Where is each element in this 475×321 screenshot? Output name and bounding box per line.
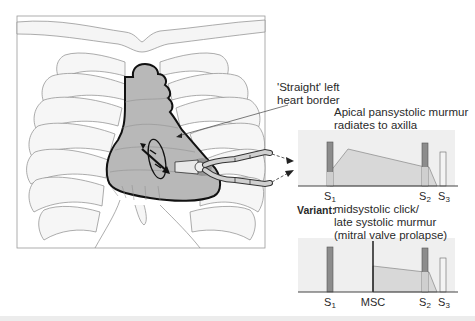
s3-bar	[440, 258, 446, 292]
straight-border-label-line2: heart border	[277, 94, 340, 107]
apical-murmur-label-line2: radiates to axilla	[334, 119, 468, 132]
variant-label-line3: (mitral valve prolapse)	[334, 229, 447, 242]
straight-border-label: 'Straight' left heart border	[277, 81, 340, 107]
s2-label-lower: S2	[419, 296, 431, 310]
phonocardiogram-upper	[298, 130, 458, 186]
s1-label-lower: S1	[324, 296, 336, 310]
msc-label: MSC	[361, 296, 385, 308]
variant-label-line1: midsystolic click/	[334, 203, 447, 216]
s3-bar	[440, 152, 446, 186]
footer-strip	[0, 316, 475, 321]
s2-label-upper: S2	[419, 190, 431, 204]
s3-label-lower: S3	[438, 296, 450, 310]
diagram-canvas	[0, 0, 475, 321]
variant-prefix-text: Variant:	[297, 204, 336, 216]
variant-label: midsystolic click/ late systolic murmur …	[334, 203, 447, 242]
s1-label-upper: S1	[324, 190, 336, 204]
apical-murmur-label-line1: Apical pansystolic murmur	[334, 106, 468, 119]
variant-prefix: Variant:	[297, 204, 336, 217]
straight-border-label-line1: 'Straight' left	[277, 81, 340, 94]
apical-murmur-label: Apical pansystolic murmur radiates to ax…	[334, 106, 468, 132]
s1-bar	[327, 247, 333, 292]
phonocardiogram-lower	[298, 238, 458, 292]
s3-label-upper: S3	[438, 190, 450, 204]
variant-label-line2: late systolic murmur	[334, 216, 447, 229]
